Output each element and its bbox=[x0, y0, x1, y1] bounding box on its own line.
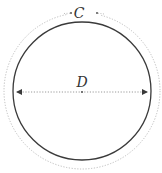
main-circle bbox=[13, 22, 151, 160]
circumference-arrow-right-dot bbox=[96, 12, 98, 14]
circle-diagram: C D bbox=[0, 0, 162, 173]
circumference-label: C bbox=[74, 5, 85, 21]
diagram-canvas: C D bbox=[0, 0, 162, 173]
diameter-label: D bbox=[75, 74, 87, 90]
center-point bbox=[81, 91, 83, 93]
circumference-arrow-left-dot bbox=[70, 12, 72, 14]
circumference-dotted-circle bbox=[4, 13, 160, 169]
